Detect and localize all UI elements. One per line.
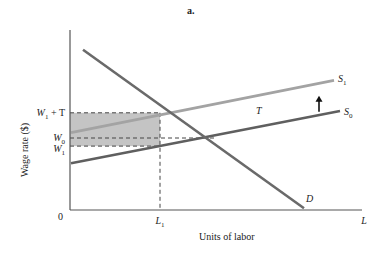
y-axis-label: Wage rate ($): [19, 123, 31, 177]
x-tick-label: L1: [154, 215, 165, 229]
chart-title: a.: [187, 5, 195, 16]
chart: a. S1S0D 0 Units of labor Wage rate ($) …: [0, 0, 381, 253]
y-tick-label: W1 + T: [37, 107, 65, 121]
origin-label: 0: [58, 211, 63, 222]
curve-label-d: D: [305, 193, 314, 204]
curve-label-s1: S1: [338, 73, 347, 87]
tax-label: T: [256, 105, 263, 116]
x-axis-label: Units of labor: [199, 231, 255, 242]
curve-s1: [71, 80, 334, 132]
up-arrow-icon: [316, 96, 323, 102]
curve-label-s0: S0: [344, 106, 353, 120]
x-tick-label: L: [360, 215, 367, 226]
